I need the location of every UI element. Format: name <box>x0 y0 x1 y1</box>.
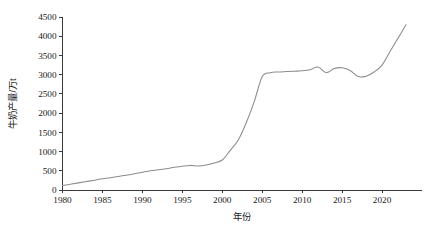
y-tick-label: 2500 <box>38 89 57 99</box>
x-axis-tick-labels: 198019851990199520002005201020152020 <box>53 195 391 205</box>
x-tick-label: 1995 <box>173 195 192 205</box>
y-tick-label: 2000 <box>38 108 57 118</box>
y-tick-label: 4000 <box>38 31 57 41</box>
x-tick-label: 1980 <box>53 195 72 205</box>
y-tick-label: 1000 <box>38 147 57 157</box>
x-tick-label: 2010 <box>293 195 312 205</box>
y-tick-label: 1500 <box>38 128 57 138</box>
x-tick-label: 1985 <box>93 195 112 205</box>
y-tick-label: 3000 <box>38 70 57 80</box>
y-axis-tick-labels: 050010001500200025003000350040004500 <box>38 12 57 195</box>
data-series-line <box>63 25 407 186</box>
y-tick-label: 0 <box>52 185 57 195</box>
x-tick-label: 1990 <box>133 195 152 205</box>
x-tick-label: 2020 <box>373 195 392 205</box>
x-axis-title: 年份 <box>233 211 252 222</box>
x-tick-label: 2015 <box>333 195 352 205</box>
y-tick-label: 500 <box>43 166 57 176</box>
y-tick-label: 3500 <box>38 51 57 61</box>
y-axis-title: 牛奶产量/万t <box>7 78 18 129</box>
y-tick-label: 4500 <box>38 12 57 22</box>
milk-production-chart: 050010001500200025003000350040004500 198… <box>0 0 430 239</box>
x-tick-label: 2005 <box>253 195 272 205</box>
x-tick-label: 2000 <box>213 195 232 205</box>
chart-canvas: 050010001500200025003000350040004500 198… <box>0 0 430 239</box>
